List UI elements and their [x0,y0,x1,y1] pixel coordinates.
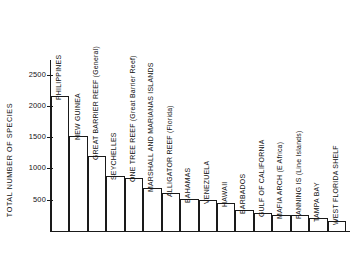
bar-label: MAFIA ARCH (E Africa) [276,141,283,218]
bar-label: TAMPA BAY [313,182,320,222]
bar-label: GULF OF CALIFORNIA [258,140,265,218]
y-tick-mark [47,75,53,76]
bar-label: MARSHALL AND MARIANAS ISLANDS [147,63,154,193]
y-tick-label: 500 [22,195,46,204]
bar [217,203,235,231]
bar [51,96,69,231]
bar [125,178,143,231]
bar-label: ONE TREE REEF (Great Barrier Reef) [129,55,136,182]
bar-label: PHILIPPINES [55,55,62,100]
bar [180,199,198,231]
bar [106,176,124,231]
y-axis-title-text: TOTAL NUMBER OF SPECIES [5,103,14,217]
bar-label: VENEZUELA [203,161,210,204]
bar [199,200,217,231]
y-tick-label: 1500 [22,132,46,141]
bar-label: GREAT BARRIER REEF (General) [92,46,99,160]
y-tick-label: 2000 [22,101,46,110]
bar-label: ALLIGATOR REEF (Florida) [166,106,173,198]
bar-label: BAHAMAS [184,168,191,203]
bar-label: FANNING IS (Line Islands) [295,130,302,219]
species-bar-chart: TOTAL NUMBER OF SPECIES 5001000150020002… [0,0,360,269]
y-tick-label: 2500 [22,70,46,79]
bar-label: WEST FLORIDA SHELF [332,145,339,225]
bar [69,136,87,231]
y-axis-title: TOTAL NUMBER OF SPECIES [4,100,14,220]
bar [162,193,180,231]
x-axis-line [50,231,350,232]
bar-label: NEW GUINEA [74,93,81,140]
bar [88,156,106,231]
bar-label: BARBADOS [239,174,246,214]
bar [143,188,161,231]
plot-area: 5001000150020002500 PHILIPPINESNEW GUINE… [50,60,350,232]
bar-label: SEYCHELLES [110,132,117,180]
y-tick-label: 1000 [22,163,46,172]
bar-label: HAWAII [221,181,228,207]
